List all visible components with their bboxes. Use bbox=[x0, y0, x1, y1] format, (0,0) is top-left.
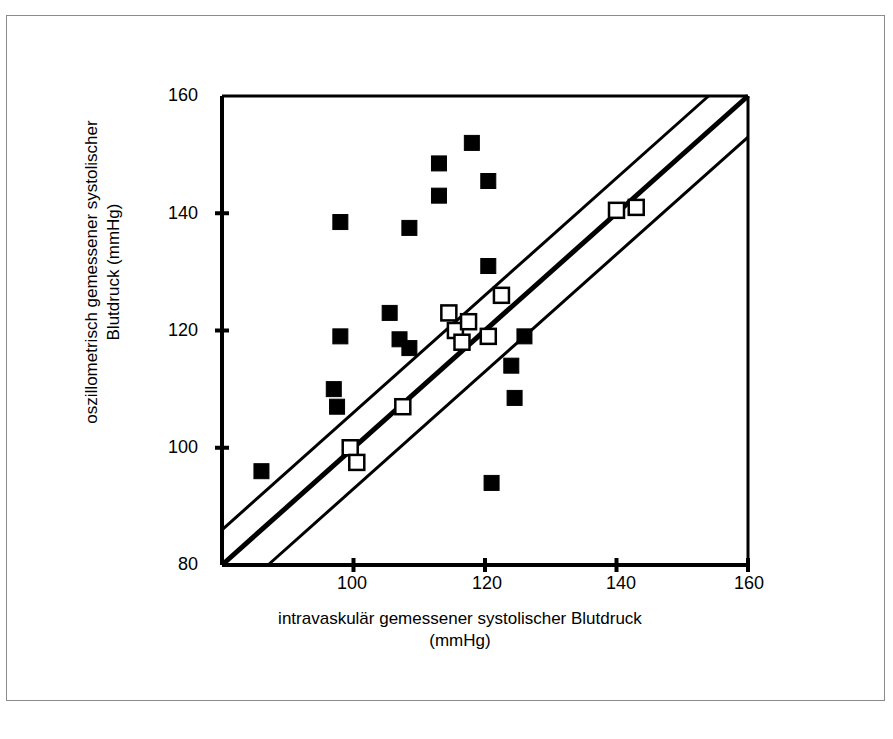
data-points-group bbox=[254, 135, 644, 490]
data-point-filled bbox=[507, 390, 522, 405]
data-point-filled bbox=[333, 215, 348, 230]
y-tick-label-80: 80 bbox=[152, 554, 198, 575]
data-point-open bbox=[481, 329, 496, 344]
data-point-open bbox=[454, 335, 469, 350]
data-point-open bbox=[494, 288, 509, 303]
data-point-filled bbox=[481, 259, 496, 274]
data-point-filled bbox=[402, 220, 417, 235]
data-point-filled bbox=[431, 156, 446, 171]
y-tick-label-160: 160 bbox=[152, 85, 198, 106]
data-point-filled bbox=[484, 475, 499, 490]
series-filled-squares bbox=[254, 135, 532, 490]
data-point-filled bbox=[330, 399, 345, 414]
upper-limit-line bbox=[222, 96, 709, 530]
x-axis-title: intravaskulär gemessener systolischer Bl… bbox=[200, 608, 720, 652]
y-tick-label-140: 140 bbox=[152, 203, 198, 224]
x-tick-label-100: 100 bbox=[328, 573, 376, 594]
data-point-filled bbox=[464, 135, 479, 150]
x-tick-label-160: 160 bbox=[725, 573, 773, 594]
y-tick-label-120: 120 bbox=[152, 320, 198, 341]
data-point-open bbox=[609, 203, 624, 218]
data-point-open bbox=[461, 314, 476, 329]
data-point-filled bbox=[254, 464, 269, 479]
data-point-filled bbox=[382, 305, 397, 320]
x-axis-title-line1: intravaskulär gemessener systolischer Bl… bbox=[278, 609, 642, 628]
lower-limit-line bbox=[268, 137, 748, 565]
data-point-filled bbox=[402, 341, 417, 356]
scatter-plot-figure: 160 140 120 100 80 100 120 140 160 oszil… bbox=[0, 0, 893, 739]
data-point-open bbox=[629, 200, 644, 215]
figure-page: 160 140 120 100 80 100 120 140 160 oszil… bbox=[0, 0, 893, 739]
data-point-open bbox=[343, 440, 358, 455]
x-tick-label-120: 120 bbox=[463, 573, 511, 594]
data-point-open bbox=[441, 305, 456, 320]
x-axis-title-line2: (mmHg) bbox=[429, 631, 490, 650]
data-point-filled bbox=[333, 329, 348, 344]
data-point-open bbox=[395, 399, 410, 414]
data-point-filled bbox=[326, 382, 341, 397]
data-point-open bbox=[349, 455, 364, 470]
y-axis-title: oszillometrisch gemessener systolischer … bbox=[81, 107, 125, 437]
x-tick-label-140: 140 bbox=[597, 573, 645, 594]
data-point-filled bbox=[517, 329, 532, 344]
series-open-squares bbox=[343, 200, 644, 470]
y-tick-label-100: 100 bbox=[152, 437, 198, 458]
data-point-filled bbox=[431, 188, 446, 203]
data-point-filled bbox=[504, 358, 519, 373]
data-point-filled bbox=[481, 174, 496, 189]
